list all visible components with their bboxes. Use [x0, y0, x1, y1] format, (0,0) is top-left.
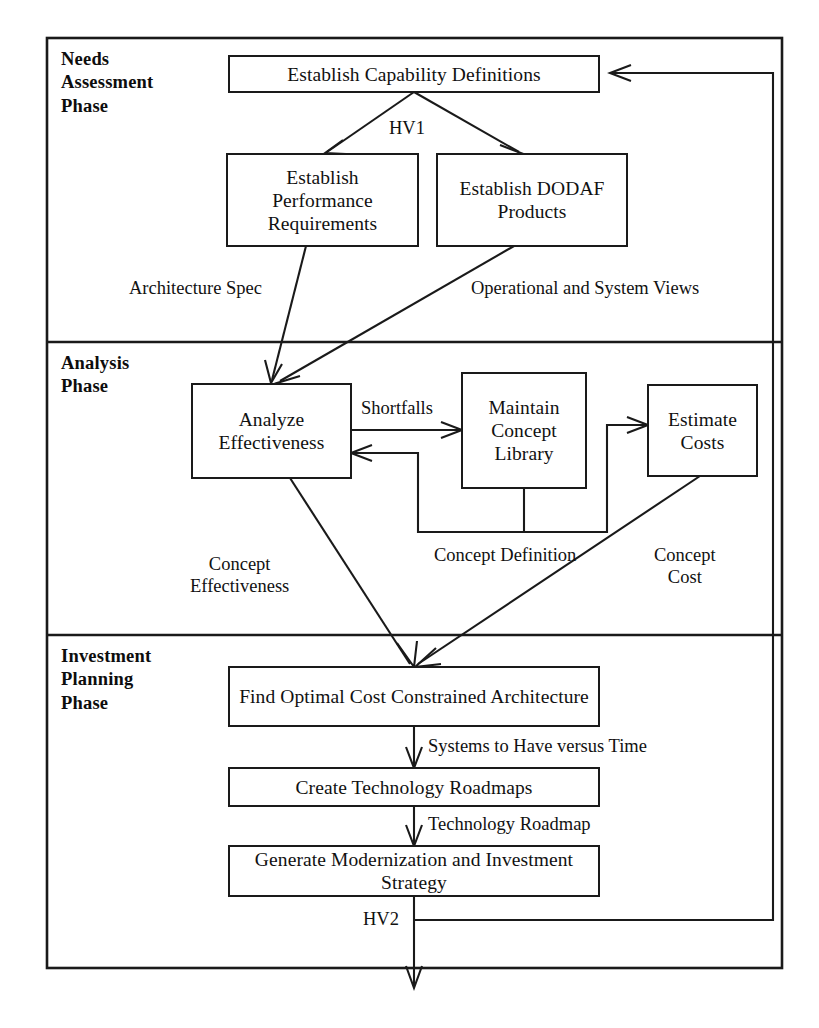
edge-label-concept-cost: Concept Cost [654, 544, 716, 588]
phase-label-analysis: Analysis Phase [61, 352, 129, 399]
edge-label-concept-effectiveness: Concept Effectiveness [190, 553, 289, 597]
arrowhead-analyze-to-library [441, 422, 462, 438]
arrowhead-analyze-to-findoptimal [397, 641, 417, 667]
edge-dodaf-to-analyze [280, 246, 514, 381]
node-label: Estimate Costs [649, 408, 756, 454]
arrowhead-to-estimate-costs [627, 417, 648, 433]
arrowhead-library-to-analyze [351, 445, 372, 461]
edge-label-shortfalls: Shortfalls [361, 397, 433, 419]
node-label: Create Technology Roadmaps [290, 776, 539, 799]
node-label: Establish DODAF Products [438, 177, 626, 223]
node-generate-modernization-and-investment-strategy[interactable]: Generate Modernization and Investment St… [228, 845, 600, 897]
edge-label-systems-to-have-versus-time: Systems to Have versus Time [428, 735, 647, 757]
node-find-optimal-cost-constrained-architecture[interactable]: Find Optimal Cost Constrained Architectu… [228, 666, 600, 727]
node-establish-performance-requirements[interactable]: Establish Performance Requirements [226, 153, 419, 247]
node-estimate-costs[interactable]: Estimate Costs [647, 384, 758, 477]
node-label: Establish Capability Definitions [281, 63, 546, 86]
edge-label-concept-definition: Concept Definition [434, 544, 576, 566]
node-create-technology-roadmaps[interactable]: Create Technology Roadmaps [228, 767, 600, 807]
arrowhead-estimate-to-findoptimal [415, 648, 441, 667]
edge-performance-to-analyze [272, 246, 306, 380]
node-label: Find Optimal Cost Constrained Architectu… [233, 685, 595, 708]
arrowhead-performance-to-analyze [265, 360, 282, 383]
node-label: Analyze Effectiveness [193, 408, 350, 454]
arrowhead-to-performance [325, 140, 346, 154]
node-maintain-concept-library[interactable]: Maintain Concept Library [461, 372, 587, 489]
edge-label-operational-and-system-views: Operational and System Views [471, 277, 699, 299]
arrowhead-roadmaps-to-generate [406, 825, 422, 846]
node-analyze-effectiveness[interactable]: Analyze Effectiveness [191, 383, 352, 479]
edge-label-hv1: HV1 [389, 117, 425, 139]
node-label: Generate Modernization and Investment St… [230, 848, 598, 894]
arrowhead-findoptimal-to-roadmaps [406, 747, 422, 768]
edge-capdef-to-dodaf [414, 92, 519, 152]
node-establish-dodaf-products[interactable]: Establish DODAF Products [436, 153, 628, 247]
phase-label-needs-assessment: Needs Assessment Phase [61, 48, 153, 118]
edge-analyze-to-findoptimal [290, 478, 410, 664]
edge-label-technology-roadmap: Technology Roadmap [428, 813, 591, 835]
arrowhead-hv2-into-capdef [610, 65, 631, 81]
phase-label-investment-planning: Investment Planning Phase [61, 645, 151, 715]
arrowhead-bottom-output [406, 966, 422, 988]
edge-label-hv2: HV2 [363, 908, 399, 930]
node-label: Establish Performance Requirements [228, 166, 417, 235]
node-establish-capability-definitions[interactable]: Establish Capability Definitions [228, 55, 600, 93]
edge-label-architecture-spec: Architecture Spec [129, 277, 262, 299]
node-label: Maintain Concept Library [463, 396, 585, 465]
process-flow-diagram: Needs Assessment Phase Analysis Phase In… [0, 0, 819, 1028]
